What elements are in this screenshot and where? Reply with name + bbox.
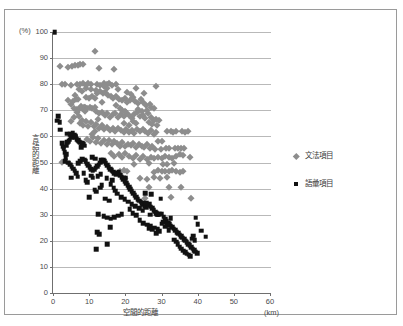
data-point-series-0: [71, 91, 77, 97]
data-point-series-0: [68, 117, 74, 123]
data-point-series-0: [175, 145, 181, 151]
data-point-series-0: [69, 63, 75, 69]
data-point-series-0: [109, 111, 115, 117]
data-point-series-1: [158, 196, 163, 201]
data-point-series-0: [188, 194, 194, 200]
data-point-series-1: [133, 204, 138, 209]
y-gridline: [53, 84, 271, 85]
y-tick-label: 40: [40, 185, 48, 193]
data-point-series-1: [124, 181, 129, 186]
data-point-series-1: [123, 176, 128, 181]
y-tick-label: 80: [40, 80, 48, 88]
data-point-series-1: [108, 167, 113, 172]
data-point-series-1: [166, 228, 171, 233]
data-point-series-0: [126, 112, 132, 118]
data-point-series-1: [89, 173, 94, 178]
data-point-series-0: [95, 65, 101, 71]
data-point-series-0: [158, 154, 164, 160]
data-point-series-0: [118, 154, 124, 160]
data-point-series-1: [70, 164, 75, 169]
data-point-series-1: [138, 199, 143, 204]
data-point-series-1: [132, 193, 137, 198]
data-point-series-1: [58, 128, 63, 133]
data-point-series-0: [97, 88, 103, 94]
data-point-series-0: [108, 141, 114, 147]
data-point-series-1: [64, 152, 69, 157]
data-point-series-0: [164, 174, 170, 180]
data-point-series-0: [86, 95, 92, 101]
data-point-series-1: [186, 242, 191, 247]
data-point-series-1: [140, 208, 145, 213]
data-point-series-0: [143, 102, 149, 108]
data-point-series-0: [111, 152, 117, 158]
data-point-series-0: [167, 194, 173, 200]
data-point-series-0: [113, 101, 119, 107]
legend-item-vocabulary[interactable]: 語彙項目: [291, 178, 381, 190]
data-point-series-0: [108, 93, 114, 99]
data-point-series-0: [79, 87, 85, 93]
data-point-series-0: [170, 128, 176, 134]
data-point-series-1: [179, 234, 184, 239]
data-point-series-1: [75, 174, 80, 179]
data-point-series-1: [74, 137, 79, 142]
data-point-series-0: [185, 128, 191, 134]
data-point-series-0: [129, 117, 135, 123]
data-point-series-0: [130, 140, 136, 146]
data-point-series-1: [94, 247, 99, 252]
data-point-series-0: [106, 137, 112, 143]
data-point-series-1: [151, 208, 156, 213]
data-point-series-0: [160, 160, 166, 166]
x-tick-label: 60: [266, 298, 274, 306]
data-point-series-0: [80, 104, 86, 110]
data-point-series-1: [145, 204, 150, 209]
data-point-series-0: [172, 145, 178, 151]
y-tick-label: 0: [44, 289, 48, 297]
data-point-series-0: [141, 89, 147, 95]
x-axis-title: 空間的距離: [123, 309, 158, 317]
data-point-series-0: [96, 125, 102, 131]
data-point-series-0: [109, 125, 115, 131]
data-point-series-1: [96, 174, 101, 179]
data-point-series-0: [144, 141, 150, 147]
data-point-series-0: [176, 151, 182, 157]
data-point-series-0: [176, 168, 182, 174]
data-point-series-1: [147, 226, 152, 231]
data-point-series-1: [100, 183, 105, 188]
y-tick-mark: [50, 267, 53, 268]
data-point-series-1: [188, 254, 193, 259]
data-point-series-0: [126, 122, 132, 128]
y-tick-mark: [50, 110, 53, 111]
data-point-series-0: [149, 121, 155, 127]
data-point-series-0: [147, 127, 153, 133]
data-point-series-1: [67, 137, 72, 142]
data-point-series-1: [119, 175, 124, 180]
data-point-series-1: [156, 227, 161, 232]
data-point-series-0: [181, 145, 187, 151]
x-tick-mark: [234, 293, 235, 296]
data-point-series-1: [69, 175, 74, 180]
data-point-series-0: [169, 167, 175, 173]
data-point-series-0: [128, 142, 134, 148]
data-point-series-0: [97, 139, 103, 145]
x-axis-unit-label: (km): [264, 309, 279, 317]
data-point-series-0: [153, 129, 159, 135]
data-point-series-0: [85, 122, 91, 128]
data-point-series-0: [129, 127, 135, 133]
legend-item-grammar[interactable]: 文法項目: [291, 150, 381, 162]
data-point-series-0: [135, 99, 141, 105]
data-point-series-0: [123, 126, 129, 132]
data-point-series-0: [76, 113, 82, 119]
data-point-series-0: [119, 139, 125, 145]
data-point-series-1: [125, 183, 130, 188]
data-point-series-0: [120, 113, 126, 119]
data-point-series-0: [137, 128, 143, 134]
data-point-series-1: [150, 206, 155, 211]
data-point-series-1: [106, 165, 111, 170]
y-gridline: [53, 189, 271, 190]
data-point-series-1: [55, 118, 60, 123]
y-tick-mark: [50, 84, 53, 85]
data-point-series-1: [62, 146, 67, 151]
data-point-series-1: [60, 141, 65, 146]
data-point-series-0: [124, 99, 130, 105]
data-point-series-0: [128, 90, 134, 96]
